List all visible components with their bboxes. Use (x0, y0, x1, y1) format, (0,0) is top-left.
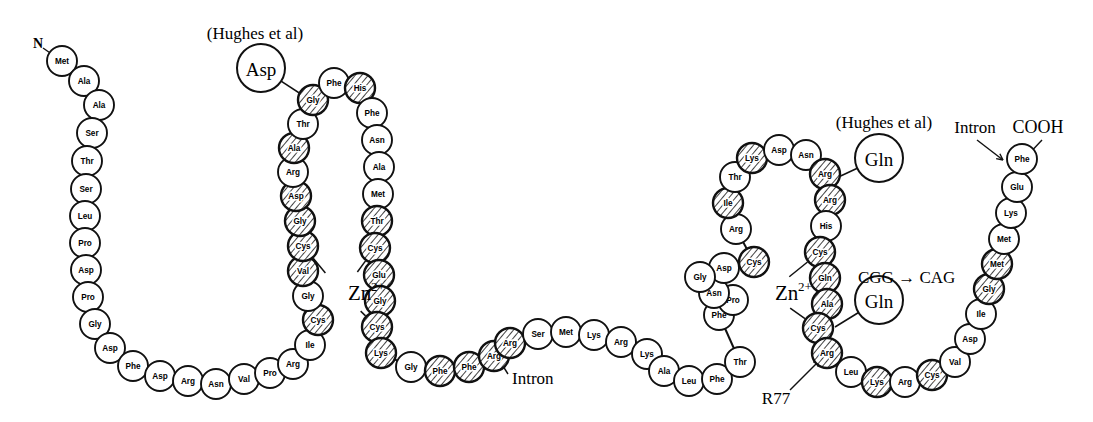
residue-label: Arg (729, 225, 743, 234)
residue-6-ser[interactable]: Ser (71, 174, 101, 204)
intron-mid-label: Intron (512, 369, 554, 388)
residue-78-lys[interactable]: LysLys (862, 367, 892, 397)
residue-label: Phe (461, 363, 476, 372)
residue-label: Pro (263, 369, 277, 378)
residue-87-lys[interactable]: Lys (996, 198, 1026, 228)
residue-38-cys[interactable]: CysCys (360, 233, 390, 263)
residue-label: Ser (79, 185, 93, 194)
residue-35-ala[interactable]: Ala (364, 152, 394, 182)
residue-label: Thr (733, 358, 747, 367)
residue-label: Lys (870, 378, 884, 387)
residue-49-met[interactable]: Met (551, 317, 581, 347)
residue-36-met[interactable]: Met (363, 179, 393, 209)
residue-8-pro[interactable]: Pro (70, 228, 100, 258)
residue-67-asp[interactable]: Asp (764, 135, 794, 165)
residue-13-phe[interactable]: Phe (118, 351, 148, 381)
residue-7-leu[interactable]: Leu (70, 201, 100, 231)
residue-89-phe[interactable]: Phe (1007, 144, 1037, 174)
residue-label: Ala (821, 300, 834, 309)
residue-label: Leu (78, 212, 93, 221)
n-terminus-label: N (33, 36, 43, 51)
residue-label: Val (949, 358, 961, 367)
residue-9-asp[interactable]: Asp (71, 255, 101, 285)
residue-label: Thr (728, 173, 742, 182)
callout-asp-label: Asp (246, 59, 277, 80)
residue-label: Arg (286, 168, 300, 177)
residue-72-cys[interactable]: CysCys (805, 237, 835, 267)
residue-label: Ala (288, 144, 301, 153)
residue-label: His (354, 84, 367, 93)
residue-label: Lys (374, 349, 388, 358)
residue-label: Asn (798, 151, 813, 160)
intron-right-label: Intron (954, 118, 996, 137)
residue-label: Cys (746, 258, 761, 267)
residue-31-phe[interactable]: Phe (319, 68, 349, 98)
residue-label: Leu (844, 368, 859, 377)
residue-54-leu[interactable]: Leu (674, 366, 704, 396)
residue-label: Ala (93, 101, 106, 110)
residue-label: Met (559, 328, 573, 337)
figure-canvas: AspGlnGln MetAlaAlaSerThrSerLeuProAspPro… (0, 0, 1093, 422)
residue-label: Met (371, 190, 385, 199)
residue-70-arg[interactable]: ArgArg (815, 185, 845, 215)
residue-label: Met (55, 57, 69, 66)
residue-33-phe[interactable]: Phe (357, 98, 387, 128)
residue-79-arg[interactable]: Arg (890, 367, 920, 397)
zinc-coordination-bond (789, 262, 807, 277)
residue-label: Asp (771, 146, 786, 155)
residue-label: Asp (102, 344, 117, 353)
residue-label: Thr (80, 157, 94, 166)
residue-48-ser[interactable]: Ser (523, 319, 553, 349)
residue-label: Arg (820, 349, 834, 358)
residue-3-ala[interactable]: Ala (84, 90, 114, 120)
residue-69-arg[interactable]: ArgArg (810, 159, 840, 189)
residue-43-gly[interactable]: Gly (396, 352, 426, 382)
residue-15-arg[interactable]: Arg (173, 366, 203, 396)
residue-label: Ala (78, 77, 91, 86)
residue-label: Lys (745, 154, 759, 163)
residue-50-lys[interactable]: Lys (579, 320, 609, 350)
residue-5-thr[interactable]: Thr (72, 146, 102, 176)
residue-label: Cys (310, 316, 325, 325)
residue-62-cys[interactable]: CysCys (739, 247, 769, 277)
residue-17-val[interactable]: Val (229, 364, 259, 394)
residue-61-gly[interactable]: Gly (685, 262, 715, 292)
residue-label: Glu (1010, 183, 1024, 192)
residue-label: Phe (1014, 155, 1029, 164)
residue-label: Phe (125, 362, 140, 371)
c-terminus-label: COOH (1012, 117, 1063, 137)
residue-label: Ala (373, 163, 386, 172)
residue-label: Arg (614, 338, 628, 347)
residue-label: Gly (293, 217, 307, 226)
residue-label: Phe (326, 79, 341, 88)
residue-label: Arg (181, 377, 195, 386)
residue-88-glu[interactable]: Glu (1002, 172, 1032, 202)
residue-label: Met (990, 260, 1004, 269)
ptr-intron-right (977, 140, 1003, 160)
residue-76-arg[interactable]: ArgArg (812, 338, 842, 368)
callout-gln-lower-label: Gln (865, 291, 894, 312)
residue-34-asn[interactable]: Asn (362, 125, 392, 155)
residue-label: Gly (373, 297, 387, 306)
mutation-cgg-cag-label: CGG → CAG (858, 268, 955, 287)
residue-label: Pro (78, 239, 92, 248)
residue-label: Ser (85, 129, 99, 138)
residue-label: Gly (404, 363, 418, 372)
residue-label: Asn (369, 136, 384, 145)
residue-label: Ser (531, 330, 545, 339)
residue-42-lys[interactable]: LysLys (366, 338, 396, 368)
residue-label: Ile (723, 199, 733, 208)
backbone-bond (725, 328, 735, 349)
residue-label: Arg (503, 339, 517, 348)
residue-label: Cys (295, 242, 310, 251)
residue-4-ser[interactable]: Ser (77, 118, 107, 148)
residue-10-pro[interactable]: Pro (73, 282, 103, 312)
residue-44-phe[interactable]: PhePhe (425, 356, 455, 386)
residue-label: Asp (962, 335, 977, 344)
residue-47-arg[interactable]: ArgArg (495, 328, 525, 358)
residue-66-lys[interactable]: LysLys (737, 143, 767, 173)
residue-56-thr[interactable]: Thr (725, 347, 755, 377)
residue-16-asn[interactable]: Asn (201, 369, 231, 399)
residue-37-thr[interactable]: ThrThr (362, 206, 392, 236)
residue-14-asp[interactable]: Asp (145, 361, 175, 391)
